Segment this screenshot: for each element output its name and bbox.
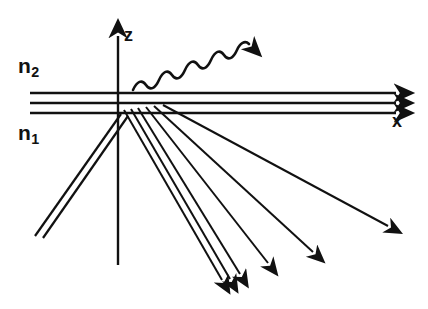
- incident-ray-b: [43, 116, 128, 238]
- n2-base: n: [18, 54, 31, 77]
- refractive-index-label-lower: n1: [18, 122, 39, 147]
- scattered-ray-3: [138, 108, 240, 274]
- refractive-index-label-upper: n2: [18, 55, 39, 80]
- interface-lines: [30, 93, 396, 113]
- n1-base: n: [18, 121, 31, 144]
- incident-beam: [35, 114, 128, 238]
- wave-arrow-path: [133, 42, 249, 90]
- scattered-ray-5: [154, 106, 313, 252]
- diagram-canvas: [0, 0, 428, 309]
- optics-diagram: n2 n1 z x: [0, 0, 428, 309]
- emitted-wave: [133, 42, 249, 90]
- n1-subscript: 1: [31, 131, 39, 147]
- scattered-rays: [124, 105, 388, 280]
- z-axis-label: z: [124, 26, 133, 44]
- incident-ray-a: [35, 114, 121, 236]
- scattered-ray-1: [124, 110, 222, 280]
- scattered-ray-6: [163, 105, 388, 226]
- n2-subscript: 2: [31, 64, 39, 80]
- x-axis-label: x: [392, 112, 402, 130]
